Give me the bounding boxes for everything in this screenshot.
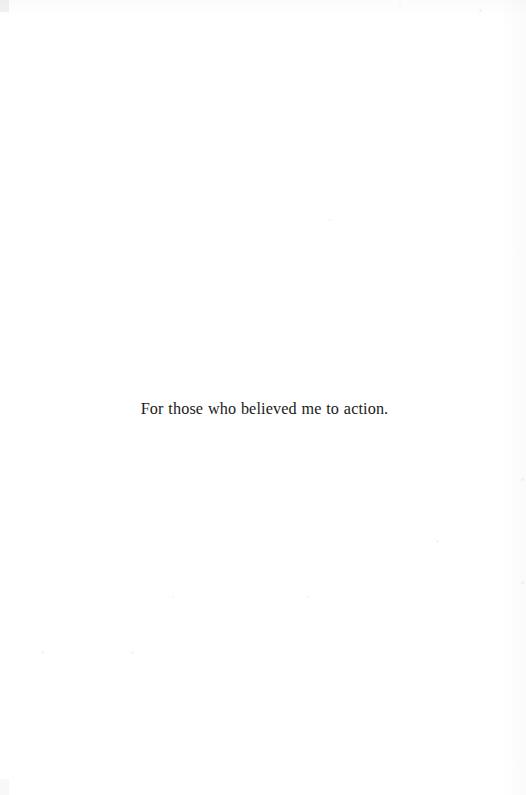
dedication-page: For those who believed me to action. <box>0 0 526 795</box>
scan-speck <box>41 651 44 654</box>
scan-speck <box>329 219 331 221</box>
scan-speck <box>307 596 309 598</box>
scan-shadow-top <box>0 0 526 18</box>
scan-speck <box>172 596 174 598</box>
scan-speck <box>479 9 482 12</box>
scan-speck <box>399 4 401 6</box>
scan-corner-mark-top-left <box>0 0 9 12</box>
scan-speck <box>436 540 439 543</box>
scan-speck <box>521 581 524 584</box>
scan-corner-mark-bottom-left <box>0 779 9 795</box>
dedication-block: For those who believed me to action. <box>0 400 526 419</box>
scan-speck <box>521 478 524 481</box>
scan-shadow-right <box>500 0 526 795</box>
dedication-text: For those who believed me to action. <box>138 400 389 419</box>
scan-speck <box>131 651 134 654</box>
